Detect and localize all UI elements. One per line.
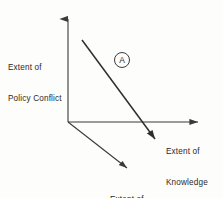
- diagram-canvas: Extent of Policy Conflict Extent of Know…: [0, 0, 223, 198]
- policy-conflict-axis-label: Extent of Policy Conflict: [8, 43, 62, 125]
- trend-arrow-annotation-badge: A: [114, 52, 130, 68]
- scientific-research-axis-label: Extent of Scientific Research: [110, 175, 183, 198]
- policy-conflict-label-line-2: Policy Conflict: [8, 94, 62, 104]
- policy-conflict-label-line-1: Extent of: [8, 63, 62, 73]
- knowledge-label-line-1: Extent of: [166, 147, 208, 157]
- scientific-research-label-line-1: Extent of: [110, 195, 183, 198]
- scientific-research-axis-line: [68, 122, 127, 168]
